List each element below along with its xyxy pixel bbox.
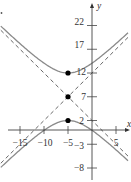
- points: [65, 70, 70, 123]
- x-tick-label: 5: [114, 138, 119, 148]
- corner-mark: [1, 12, 3, 14]
- lower-vertex-point: [65, 118, 70, 123]
- x-tick-label: −15: [13, 138, 28, 148]
- hyperbola-chart: x y −15 −10 −5 5 22 17 12 7 2 −3 −8: [0, 0, 131, 182]
- center-point: [65, 94, 70, 99]
- y-axis-arrow-icon: [90, 3, 94, 8]
- y-tick-label: 7: [81, 92, 86, 102]
- y-tick-label: −3: [74, 141, 84, 151]
- x-tick-label: −5: [63, 138, 73, 148]
- y-tick-label: −8: [74, 163, 84, 173]
- y-tick-label: 22: [75, 17, 85, 27]
- y-tick-label: 2: [79, 116, 84, 126]
- upper-vertex-point: [65, 70, 70, 75]
- x-axis-label: x: [126, 119, 131, 129]
- hyperbola-upper-branch: [1, 26, 128, 73]
- x-tick-label: −10: [38, 138, 53, 148]
- y-axis-label: y: [96, 1, 102, 11]
- y-tick-label: 12: [77, 67, 87, 77]
- y-tick-label: 17: [75, 40, 85, 50]
